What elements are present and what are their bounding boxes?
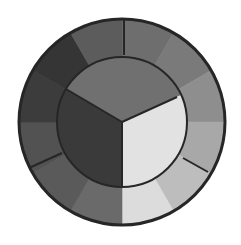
color-wheel <box>0 0 241 245</box>
color-wheel-diagram <box>0 0 241 245</box>
